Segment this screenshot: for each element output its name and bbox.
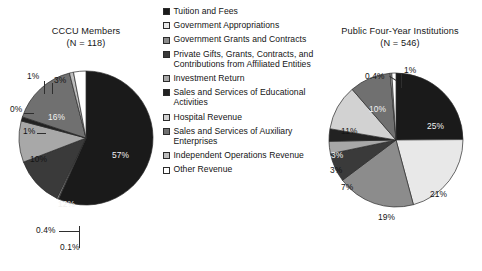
legend-swatch-private-gifts-grants-contracts [163,51,170,58]
legend-item-sales-services-educational-activities[interactable]: Sales and Services of Educational Activi… [163,87,315,107]
right-slice-label-auxiliary: 10% [369,105,386,114]
right-slice-label-private-gifts: 7% [341,183,353,192]
left-slice-label-auxiliary: 16% [48,113,65,122]
left-chart-title: CCCU Members [12,26,160,38]
legend-item-private-gifts-grants-contracts[interactable]: Private Gifts, Grants, Contracts, and Co… [163,49,315,69]
left-chart-subtitle: (N = 118) [12,38,160,50]
legend-label-other-revenue: Other Revenue [173,164,232,174]
legend-swatch-hospital-revenue [163,114,170,121]
legend-swatch-sales-services-auxiliary-enterprises [163,128,170,135]
legend-swatch-tuition-and-fees [163,8,170,15]
right-slice-label-tuition: 25% [427,122,444,131]
legend-label-independent-operations-revenue: Independent Operations Revenue [173,150,304,160]
legend-label-private-gifts-grants-contracts: Private Gifts, Grants, Contracts, and Co… [173,49,315,69]
left-slice-label-govt-grants: 0.4% [36,226,56,235]
left-leader-other [44,81,45,94]
right-slice-label-hospital: 11% [341,127,357,136]
legend-label-government-appropriations: Government Appropriations [173,20,279,30]
right-chart-subtitle: (N = 546) [322,38,478,50]
left-leader-educational [37,133,46,134]
pie-chart-cccu-members [16,68,156,208]
left-slice-label-hospital: 0% [10,105,22,114]
legend-item-independent-operations-revenue[interactable]: Independent Operations Revenue [163,150,315,160]
legend-swatch-sales-services-educational-activities [163,89,170,96]
right-slice-label-govt-approp: 21% [430,190,447,199]
legend-item-government-grants-and-contracts[interactable]: Government Grants and Contracts [163,34,315,44]
legend-item-hospital-revenue[interactable]: Hospital Revenue [163,112,315,122]
legend-label-sales-services-auxiliary-enterprises: Sales and Services of Auxiliary Enterpri… [173,126,315,146]
right-slice-label-investment: 3% [330,166,342,175]
left-slice-label-private-gifts: 12% [58,200,75,209]
legend-label-government-grants-and-contracts: Government Grants and Contracts [173,34,306,44]
right-slice-label-other: 1% [404,66,416,75]
left-leader-govt-grants [59,231,79,232]
left-chart-title-block: CCCU Members (N = 118) [12,26,160,49]
legend-swatch-government-appropriations [163,22,170,29]
legend-item-sales-services-auxiliary-enterprises[interactable]: Sales and Services of Auxiliary Enterpri… [163,126,315,146]
left-leader-independent [52,83,53,94]
right-slice-label-educational: 3% [331,151,343,160]
left-slice-label-tuition: 57% [112,151,129,160]
legend: Tuition and FeesGovernment Appropriation… [163,6,315,179]
legend-label-sales-services-educational-activities: Sales and Services of Educational Activi… [173,87,315,107]
left-slice-label-govt-approp: 0.1% [60,243,80,252]
legend-swatch-government-grants-and-contracts [163,37,170,44]
left-leader-hospital [24,113,34,114]
legend-swatch-other-revenue [163,167,170,174]
left-slice-label-investment: 10% [30,155,47,164]
left-slice-label-independent: 1% [27,72,39,81]
legend-label-hospital-revenue: Hospital Revenue [173,112,242,122]
legend-label-investment-return: Investment Return [173,73,244,83]
figure-canvas: CCCU Members (N = 118) Public Four-Year … [0,0,482,271]
legend-item-tuition-and-fees[interactable]: Tuition and Fees [163,6,315,16]
left-leader-govt-approp [79,226,80,248]
legend-item-government-appropriations[interactable]: Government Appropriations [163,20,315,30]
left-pie-slices [19,71,153,205]
right-chart-title: Public Four-Year Institutions [322,26,478,38]
legend-item-other-revenue[interactable]: Other Revenue [163,164,315,174]
legend-item-investment-return[interactable]: Investment Return [163,73,315,83]
right-leader-other [401,74,402,88]
left-slice-label-educational: 1% [23,127,35,136]
legend-label-tuition-and-fees: Tuition and Fees [173,6,238,16]
legend-swatch-independent-operations-revenue [163,152,170,159]
right-slice-label-independent: 0.4% [365,72,385,81]
left-slice-label-other: 3% [54,76,66,85]
right-slice-label-govt-grants: 19% [378,213,395,222]
legend-swatch-investment-return [163,75,170,82]
right-chart-title-block: Public Four-Year Institutions (N = 546) [322,26,478,49]
